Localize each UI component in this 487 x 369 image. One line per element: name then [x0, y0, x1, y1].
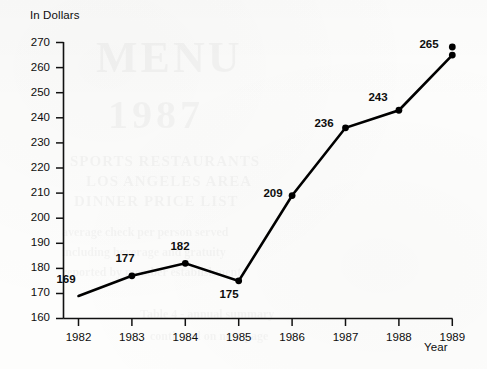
data-label-1987: 236 — [309, 117, 339, 129]
data-point-1984 — [235, 277, 242, 284]
data-point-1983 — [182, 260, 189, 267]
y-tick-label-250: 250 — [20, 86, 50, 98]
x-tick-label-1989: 1989 — [430, 331, 474, 343]
y-tick-label-180: 180 — [20, 261, 50, 273]
x-tick-label-1988: 1988 — [377, 331, 421, 343]
y-axis-title: In Dollars — [30, 9, 80, 21]
y-tick-label-260: 260 — [20, 61, 50, 73]
y-tick-label-210: 210 — [20, 186, 50, 198]
y-tick-label-220: 220 — [20, 161, 50, 173]
x-tick-label-1983: 1983 — [110, 331, 154, 343]
y-tick-label-170: 170 — [20, 286, 50, 298]
data-label-1989: 265 — [414, 38, 444, 50]
data-point-1989 — [449, 44, 456, 51]
x-tick-label-1982: 1982 — [57, 331, 101, 343]
data-point-1986 — [342, 124, 349, 131]
x-tick-label-1986: 1986 — [270, 331, 314, 343]
data-label-1988: 243 — [363, 91, 393, 103]
x-axis-ticks — [79, 319, 453, 327]
y-tick-label-270: 270 — [20, 36, 50, 48]
chart-page: MENU 1987 SPORTS RESTAURANTS LOS ANGELES… — [0, 0, 487, 369]
y-tick-label-230: 230 — [20, 136, 50, 148]
y-tick-label-160: 160 — [20, 311, 50, 323]
data-point-1985 — [289, 192, 296, 199]
data-point-1982 — [129, 272, 136, 279]
line-chart-plot — [0, 0, 487, 369]
data-label-1982: 169 — [51, 273, 81, 285]
data-point-1987 — [396, 107, 403, 114]
y-tick-label-200: 200 — [20, 211, 50, 223]
y-tick-label-190: 190 — [20, 236, 50, 248]
x-tick-label-1987: 1987 — [324, 331, 368, 343]
x-tick-label-1985: 1985 — [217, 331, 261, 343]
data-label-1985: 175 — [214, 288, 244, 300]
data-label-1983: 177 — [110, 252, 140, 264]
x-tick-label-1984: 1984 — [163, 331, 207, 343]
data-label-1984: 182 — [165, 240, 195, 252]
data-point-1988 — [449, 52, 456, 59]
y-tick-label-240: 240 — [20, 111, 50, 123]
data-label-1986: 209 — [258, 187, 288, 199]
